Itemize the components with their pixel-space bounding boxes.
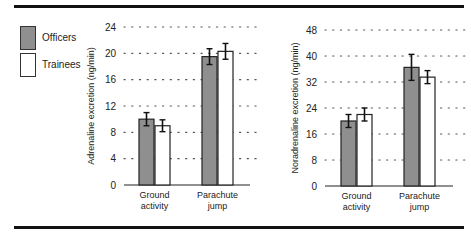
- x-category-label: Ground: [341, 191, 371, 201]
- x-category-label: jump: [409, 202, 430, 212]
- x-category-label: Parachute: [197, 190, 238, 200]
- bar-trainees: [357, 115, 372, 187]
- y-tick-label: 0: [311, 181, 317, 192]
- bar-trainees: [218, 51, 233, 185]
- chart-2: 081624324048Noradrenaline excretion (ng/…: [290, 25, 465, 213]
- y-tick-label: 40: [306, 51, 318, 62]
- y-tick-label: 0: [110, 180, 116, 191]
- x-category-label: Parachute: [399, 191, 440, 201]
- bar-trainees: [155, 126, 170, 185]
- y-tick-label: 24: [105, 22, 117, 33]
- bar-officers: [139, 119, 154, 185]
- x-category-label: activity: [343, 202, 371, 212]
- y-tick-label: 16: [306, 129, 318, 140]
- y-tick-label: 8: [110, 127, 116, 138]
- y-axis-label: Noradrenaline excretion (ng/min): [290, 42, 300, 173]
- y-tick-label: 48: [306, 25, 318, 36]
- bar-officers: [341, 121, 356, 186]
- bar-officers: [404, 67, 419, 186]
- chart-1: 04812162024Adrenaline excretion (ng/min)…: [86, 22, 262, 212]
- charts-canvas: 04812162024Adrenaline excretion (ng/min)…: [0, 0, 471, 234]
- x-category-label: Ground: [139, 190, 169, 200]
- x-category-label: activity: [141, 201, 169, 211]
- y-axis-label: Adrenaline excretion (ng/min): [86, 47, 96, 165]
- y-tick-label: 16: [105, 74, 117, 85]
- y-tick-label: 20: [105, 48, 117, 59]
- y-tick-label: 4: [110, 153, 116, 164]
- y-tick-label: 8: [311, 155, 317, 166]
- bar-officers: [202, 57, 217, 185]
- bar-trainees: [420, 77, 435, 186]
- y-tick-label: 12: [105, 101, 117, 112]
- y-tick-label: 24: [306, 103, 318, 114]
- x-category-label: jump: [207, 201, 228, 211]
- y-tick-label: 32: [306, 77, 318, 88]
